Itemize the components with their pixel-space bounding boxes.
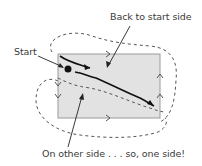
label-back-to-start-side: Back to start side	[110, 11, 191, 22]
label-start: Start	[14, 46, 37, 57]
start-dot	[65, 66, 72, 73]
label-other-side: On other side . . . so, one side!	[42, 148, 185, 159]
mobius-diagram	[0, 0, 202, 166]
